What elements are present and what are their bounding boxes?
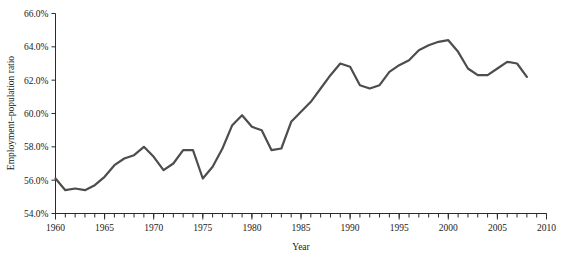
x-tick-label: 1960 [46, 223, 65, 233]
x-tick-label: 1970 [144, 223, 163, 233]
y-axis-ticks [52, 14, 56, 214]
x-axis-title: Year [292, 242, 310, 252]
x-tick-label: 2010 [537, 223, 556, 233]
x-tick-label: 1975 [193, 223, 212, 233]
line-chart: 54.0%56.0%58.0%60.0%62.0%64.0%66.0% 1960… [0, 0, 564, 257]
x-tick-label: 1990 [341, 223, 360, 233]
chart-container: 54.0%56.0%58.0%60.0%62.0%64.0%66.0% 1960… [0, 0, 564, 257]
y-tick-label: 60.0% [24, 109, 49, 119]
y-axis-title: Employment–population ratio [6, 56, 16, 170]
y-tick-label: 56.0% [24, 176, 49, 186]
y-tick-label: 58.0% [24, 142, 49, 152]
y-axis-tick-labels: 54.0%56.0%58.0%60.0%62.0%64.0%66.0% [24, 9, 49, 219]
y-tick-label: 54.0% [24, 209, 49, 219]
series-line-employment-population-ratio [56, 40, 527, 190]
x-tick-label: 1995 [390, 223, 409, 233]
y-tick-label: 62.0% [24, 76, 49, 86]
x-tick-label: 1985 [292, 223, 311, 233]
y-tick-label: 64.0% [24, 42, 49, 52]
x-axis-major-ticks [56, 214, 547, 220]
x-tick-label: 1980 [242, 223, 261, 233]
data-series-group [56, 40, 527, 190]
x-tick-label: 2005 [488, 223, 507, 233]
y-tick-label: 66.0% [24, 9, 49, 19]
x-tick-label: 1965 [95, 223, 114, 233]
x-tick-label: 2000 [439, 223, 458, 233]
x-axis-tick-labels: 1960196519701975198019851990199520002005… [46, 223, 556, 233]
